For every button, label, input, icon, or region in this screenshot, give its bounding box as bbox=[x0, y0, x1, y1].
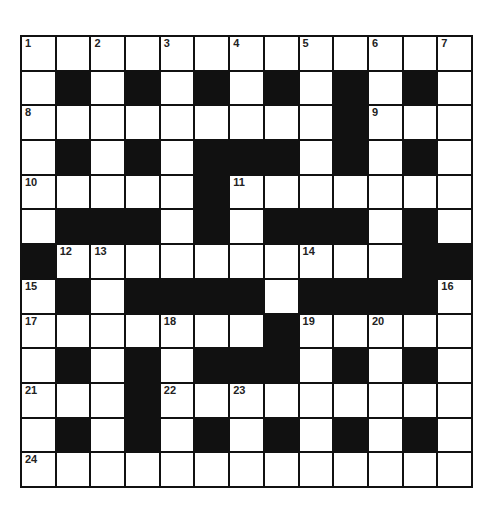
answer-cell[interactable] bbox=[438, 210, 471, 243]
answer-cell[interactable] bbox=[195, 384, 228, 417]
answer-cell[interactable] bbox=[195, 315, 228, 348]
answer-cell[interactable] bbox=[91, 106, 124, 139]
answer-cell[interactable] bbox=[57, 37, 90, 70]
answer-cell[interactable] bbox=[404, 106, 437, 139]
answer-cell[interactable] bbox=[369, 419, 402, 452]
answer-cell[interactable] bbox=[126, 245, 159, 278]
answer-cell[interactable] bbox=[230, 453, 263, 486]
answer-cell[interactable]: 11 bbox=[230, 176, 263, 209]
answer-cell[interactable] bbox=[91, 315, 124, 348]
answer-cell[interactable] bbox=[334, 37, 367, 70]
answer-cell[interactable] bbox=[161, 419, 194, 452]
answer-cell[interactable] bbox=[265, 106, 298, 139]
answer-cell[interactable] bbox=[265, 453, 298, 486]
answer-cell[interactable] bbox=[91, 384, 124, 417]
answer-cell[interactable] bbox=[161, 106, 194, 139]
answer-cell[interactable] bbox=[334, 315, 367, 348]
answer-cell[interactable] bbox=[230, 315, 263, 348]
answer-cell[interactable]: 4 bbox=[230, 37, 263, 70]
answer-cell[interactable] bbox=[300, 453, 333, 486]
answer-cell[interactable] bbox=[265, 37, 298, 70]
answer-cell[interactable] bbox=[22, 141, 55, 174]
answer-cell[interactable] bbox=[91, 72, 124, 105]
answer-cell[interactable] bbox=[438, 453, 471, 486]
answer-cell[interactable] bbox=[195, 453, 228, 486]
answer-cell[interactable] bbox=[161, 72, 194, 105]
answer-cell[interactable] bbox=[91, 349, 124, 382]
answer-cell[interactable]: 24 bbox=[22, 453, 55, 486]
answer-cell[interactable] bbox=[265, 384, 298, 417]
answer-cell[interactable] bbox=[438, 176, 471, 209]
answer-cell[interactable] bbox=[404, 453, 437, 486]
answer-cell[interactable] bbox=[369, 349, 402, 382]
answer-cell[interactable]: 5 bbox=[300, 37, 333, 70]
answer-cell[interactable] bbox=[126, 176, 159, 209]
answer-cell[interactable]: 8 bbox=[22, 106, 55, 139]
answer-cell[interactable] bbox=[265, 280, 298, 313]
answer-cell[interactable] bbox=[404, 384, 437, 417]
answer-cell[interactable] bbox=[161, 349, 194, 382]
answer-cell[interactable] bbox=[334, 245, 367, 278]
answer-cell[interactable] bbox=[369, 176, 402, 209]
answer-cell[interactable] bbox=[369, 210, 402, 243]
answer-cell[interactable]: 17 bbox=[22, 315, 55, 348]
answer-cell[interactable]: 1 bbox=[22, 37, 55, 70]
answer-cell[interactable] bbox=[195, 37, 228, 70]
answer-cell[interactable] bbox=[438, 72, 471, 105]
answer-cell[interactable] bbox=[91, 280, 124, 313]
answer-cell[interactable] bbox=[369, 245, 402, 278]
answer-cell[interactable]: 20 bbox=[369, 315, 402, 348]
answer-cell[interactable] bbox=[334, 176, 367, 209]
answer-cell[interactable] bbox=[230, 106, 263, 139]
answer-cell[interactable] bbox=[369, 141, 402, 174]
answer-cell[interactable] bbox=[161, 176, 194, 209]
answer-cell[interactable] bbox=[369, 384, 402, 417]
answer-cell[interactable] bbox=[300, 141, 333, 174]
answer-cell[interactable] bbox=[438, 349, 471, 382]
answer-cell[interactable] bbox=[161, 245, 194, 278]
answer-cell[interactable] bbox=[438, 106, 471, 139]
answer-cell[interactable] bbox=[22, 419, 55, 452]
answer-cell[interactable]: 18 bbox=[161, 315, 194, 348]
answer-cell[interactable]: 7 bbox=[438, 37, 471, 70]
answer-cell[interactable] bbox=[91, 419, 124, 452]
answer-cell[interactable] bbox=[404, 176, 437, 209]
answer-cell[interactable]: 21 bbox=[22, 384, 55, 417]
answer-cell[interactable] bbox=[404, 37, 437, 70]
answer-cell[interactable] bbox=[195, 106, 228, 139]
answer-cell[interactable] bbox=[438, 315, 471, 348]
answer-cell[interactable] bbox=[22, 72, 55, 105]
answer-cell[interactable] bbox=[230, 210, 263, 243]
answer-cell[interactable] bbox=[300, 72, 333, 105]
answer-cell[interactable]: 6 bbox=[369, 37, 402, 70]
answer-cell[interactable] bbox=[126, 453, 159, 486]
answer-cell[interactable]: 22 bbox=[161, 384, 194, 417]
answer-cell[interactable] bbox=[161, 453, 194, 486]
answer-cell[interactable] bbox=[22, 210, 55, 243]
answer-cell[interactable] bbox=[300, 349, 333, 382]
answer-cell[interactable]: 10 bbox=[22, 176, 55, 209]
answer-cell[interactable]: 15 bbox=[22, 280, 55, 313]
answer-cell[interactable] bbox=[57, 453, 90, 486]
answer-cell[interactable] bbox=[57, 315, 90, 348]
answer-cell[interactable]: 12 bbox=[57, 245, 90, 278]
answer-cell[interactable] bbox=[438, 419, 471, 452]
answer-cell[interactable]: 2 bbox=[91, 37, 124, 70]
answer-cell[interactable] bbox=[91, 176, 124, 209]
answer-cell[interactable] bbox=[265, 176, 298, 209]
answer-cell[interactable] bbox=[161, 210, 194, 243]
answer-cell[interactable]: 9 bbox=[369, 106, 402, 139]
answer-cell[interactable] bbox=[91, 453, 124, 486]
answer-cell[interactable]: 19 bbox=[300, 315, 333, 348]
answer-cell[interactable]: 14 bbox=[300, 245, 333, 278]
answer-cell[interactable] bbox=[57, 384, 90, 417]
answer-cell[interactable] bbox=[57, 106, 90, 139]
answer-cell[interactable] bbox=[230, 245, 263, 278]
answer-cell[interactable] bbox=[300, 106, 333, 139]
answer-cell[interactable] bbox=[334, 384, 367, 417]
answer-cell[interactable] bbox=[230, 419, 263, 452]
answer-cell[interactable] bbox=[161, 141, 194, 174]
answer-cell[interactable]: 16 bbox=[438, 280, 471, 313]
answer-cell[interactable] bbox=[334, 453, 367, 486]
answer-cell[interactable]: 13 bbox=[91, 245, 124, 278]
